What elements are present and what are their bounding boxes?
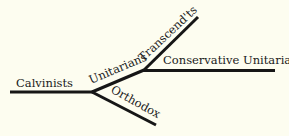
denomination-tree-diagram: Calvinists Unitarians Orthodox Transcend… — [0, 0, 289, 136]
conservative-unitarians-label: Conservative Unitarians — [163, 53, 289, 67]
calvinists-label: Calvinists — [16, 76, 73, 90]
